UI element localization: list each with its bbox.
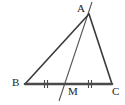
vertex-label-c: C: [112, 86, 119, 97]
vertex-label-a: A: [77, 3, 85, 14]
vertex-label-b: B: [12, 77, 19, 88]
geometry-canvas: [0, 0, 125, 105]
triangle-median-diagram: A B C M: [0, 0, 125, 105]
vertex-label-m: M: [68, 86, 78, 97]
